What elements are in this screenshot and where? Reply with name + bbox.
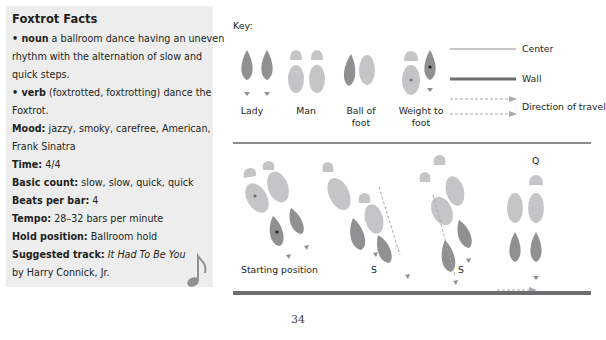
center-line	[233, 142, 591, 144]
wall-line	[233, 291, 591, 295]
tempo-line: Tempo: 28–32 bars per minute	[12, 210, 207, 228]
key-center-label: Center	[522, 43, 553, 55]
start-position-feet	[240, 161, 309, 259]
verb-line-2: Foxtrot.	[12, 102, 207, 120]
mood-line-2: Frank Sinatra	[12, 138, 207, 156]
key-lady-label: Lady	[235, 105, 269, 117]
step-slow-1-feet	[323, 162, 410, 279]
mood-line: Mood: jazzy, smoky, carefree, American,	[12, 120, 207, 138]
verb-line: • verb (foxtrotted, foxtrotting) dance t…	[12, 84, 207, 102]
step-quick-feet	[497, 175, 544, 293]
foxtrot-facts-box: Foxtrot Facts • noun a ballroom dance ha…	[6, 6, 213, 287]
count-line: Basic count: slow, slow, quick, quick	[12, 174, 207, 192]
noun-line-2: rhythm with the alternation of slow and	[12, 48, 207, 66]
key-man-label: Man	[291, 105, 321, 117]
step-q-label: Q	[532, 155, 539, 167]
man-key-icon	[288, 50, 325, 93]
foxtrot-step-diagram: Key:	[233, 10, 591, 300]
weight-to-foot-key-icon	[402, 50, 436, 95]
direction-arrow-sample	[450, 99, 511, 114]
noun-line-3: quick steps.	[12, 66, 207, 84]
facts-title: Foxtrot Facts	[12, 12, 207, 26]
ball-of-foot-key-icon	[344, 54, 375, 86]
starting-position-label: Starting position	[241, 264, 318, 276]
music-note-icon	[185, 253, 209, 289]
time-line: Time: 4/4	[12, 156, 207, 174]
noun-line: • noun a ballroom dance having an uneven	[12, 30, 207, 48]
beats-line: Beats per bar: 4	[12, 192, 207, 210]
lady-key-icon	[241, 50, 272, 96]
key-weight-label: Weight tofoot	[395, 105, 447, 129]
step-s2-label: S	[458, 264, 464, 276]
track-line: Suggested track: It Had To Be You	[12, 246, 207, 264]
page-number: 34	[0, 313, 596, 326]
step-s1-label: S	[371, 264, 377, 276]
hold-line: Hold position: Ballroom hold	[12, 228, 207, 246]
key-ball-label: Ball offoot	[341, 105, 381, 129]
key-wall-label: Wall	[522, 73, 541, 85]
key-direction-label: Direction of travel	[522, 101, 606, 113]
track-artist: by Harry Connick, Jr.	[12, 264, 207, 282]
